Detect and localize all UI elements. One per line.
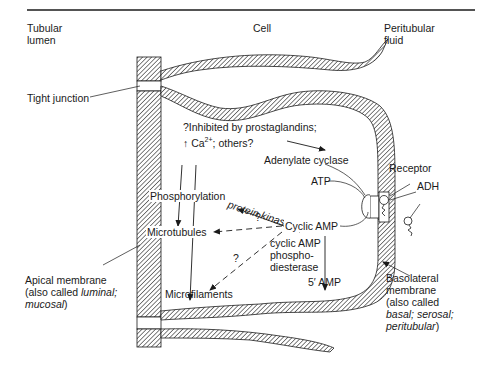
basolateral-line5-suffix: ) bbox=[436, 320, 440, 332]
prostaglandin-to-adenylate-arrow bbox=[287, 141, 325, 150]
up-arrow-icon: ↑ bbox=[183, 137, 188, 149]
apical-line1: Apical membrane bbox=[25, 274, 117, 286]
calcium-symbol: Ca bbox=[191, 137, 204, 149]
adh-molecule bbox=[404, 217, 412, 236]
peritubular-fluid-label: Peritubular fluid bbox=[384, 22, 435, 46]
adh-label: ADH bbox=[417, 180, 439, 192]
basolateral-line5: peritubular) bbox=[386, 320, 454, 332]
calcium-charge: 2+ bbox=[205, 136, 213, 143]
five-amp-label: 5′ AMP bbox=[308, 276, 341, 288]
phosphodiesterase-line2: phospho- bbox=[270, 249, 321, 261]
inhibited-by-prostaglandins-label: ?Inhibited by prostaglandins; bbox=[183, 121, 317, 133]
basolateral-line4: basal; serosal; bbox=[386, 308, 454, 320]
tubular-lumen-line1: Tubular bbox=[27, 22, 62, 34]
others-text: ; others? bbox=[213, 137, 254, 149]
basolateral-line5-italic: peritubular bbox=[386, 320, 436, 332]
cyclic-amp-label: Cyclic AMP bbox=[284, 220, 339, 232]
upper-neighbor-membrane bbox=[161, 39, 388, 80]
phosphodiesterase-line1: cyclic AMP bbox=[270, 237, 321, 249]
microtubules-label: Microtubules bbox=[146, 226, 208, 238]
basolateral-line3: (also called bbox=[386, 296, 454, 308]
adenylate-cyclase-label: Adenylate cyclase bbox=[264, 154, 349, 166]
phosphodiesterase-label: cyclic AMP phospho- diesterase bbox=[270, 237, 321, 273]
apical-membrane-label: Apical membrane (also called luminal; mu… bbox=[25, 274, 117, 310]
basolateral-membrane-label: Basolateral membrane (also called basal;… bbox=[386, 272, 454, 332]
tight-junction-leader bbox=[90, 86, 140, 97]
atp-label: ATP bbox=[311, 175, 331, 187]
apical-line3-italic: mucosal bbox=[25, 298, 64, 310]
tubular-lumen-line2: lumen bbox=[27, 34, 62, 46]
apical-line2: (also called luminal; bbox=[25, 286, 117, 298]
phosphorylation-label: Phosphorylation bbox=[149, 190, 226, 202]
receptor-label: Receptor bbox=[389, 162, 432, 174]
apical-line2-prefix: (also called bbox=[25, 286, 81, 298]
camp-to-microtubules-arrow bbox=[214, 226, 282, 232]
apical-line3: mucosal) bbox=[25, 298, 117, 310]
question-mark-1: ? bbox=[255, 211, 261, 223]
microfilaments-label: Microfilaments bbox=[165, 288, 233, 300]
tubular-lumen-label: Tubular lumen bbox=[27, 22, 62, 46]
basolateral-line2: membrane bbox=[386, 284, 454, 296]
phosphodiesterase-line3: diesterase bbox=[270, 261, 321, 273]
tight-junction-label: Tight junction bbox=[27, 92, 89, 104]
peritubular-fluid-line2: fluid bbox=[384, 34, 435, 46]
question-mark-2: ? bbox=[233, 252, 239, 264]
apical-membrane-wall bbox=[137, 57, 161, 347]
apical-line3-suffix: ) bbox=[64, 298, 68, 310]
calcium-label: ↑ Ca2+; others? bbox=[183, 134, 253, 149]
atp-leader bbox=[328, 181, 365, 198]
adh-molecule-leader bbox=[410, 204, 420, 218]
basolateral-line1: Basolateral bbox=[386, 272, 454, 284]
cell-label: Cell bbox=[253, 22, 271, 34]
apical-line2-italic: luminal; bbox=[81, 286, 117, 298]
apical-membrane-leader bbox=[103, 245, 140, 265]
lower-neighbor-membrane bbox=[161, 329, 334, 352]
peritubular-fluid-line1: Peritubular bbox=[384, 22, 435, 34]
